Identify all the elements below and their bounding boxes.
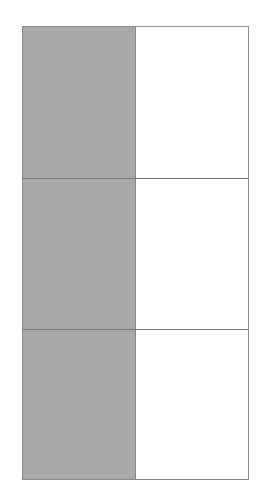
row-2 (23, 179, 248, 330)
row-1 (23, 27, 248, 178)
fraction-rectangle (22, 26, 249, 480)
row-3 (23, 330, 248, 480)
